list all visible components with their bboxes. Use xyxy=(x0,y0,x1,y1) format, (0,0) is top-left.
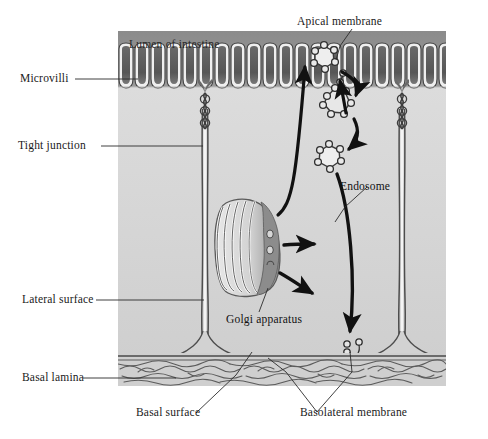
golgi-apparatus xyxy=(215,199,280,296)
label-basal-lamina: Basal lamina xyxy=(22,371,84,383)
label-basal-surface: Basal surface xyxy=(136,406,200,418)
cell-illustration xyxy=(118,31,446,386)
label-lateral-surface: Lateral surface xyxy=(22,293,94,305)
label-endosome: Endosome xyxy=(340,180,390,192)
label-golgi-apparatus: Golgi apparatus xyxy=(226,313,302,325)
label-microvilli: Microvilli xyxy=(20,72,69,84)
illustration-panel xyxy=(118,31,446,386)
label-apical-membrane: Apical membrane xyxy=(297,15,382,27)
basal-lamina-mesh xyxy=(118,353,446,386)
figure-canvas: Apical membrane Lumen of intestine Micro… xyxy=(0,0,488,439)
label-lumen-of-intestine: Lumen of intestine xyxy=(129,38,219,50)
label-tight-junction: Tight junction xyxy=(18,139,86,151)
label-basolateral-membrane: Basolateral membrane xyxy=(300,406,407,418)
